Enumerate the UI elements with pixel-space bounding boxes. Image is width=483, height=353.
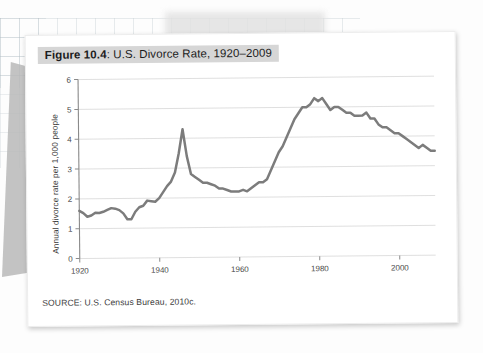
svg-text:5: 5 xyxy=(67,105,72,114)
x-tick-labels: 19201940196019802000 xyxy=(71,263,409,275)
figure-title-text: : U.S. Divorce Rate, 1920–2009 xyxy=(107,47,272,61)
axes xyxy=(74,76,400,262)
svg-text:2: 2 xyxy=(68,195,73,204)
svg-text:3: 3 xyxy=(67,165,72,174)
svg-text:4: 4 xyxy=(67,135,72,144)
figure-title: Figure 10.4: U.S. Divorce Rate, 1920–200… xyxy=(38,45,279,64)
source-note: SOURCE: U.S. Census Bureau, 2010c. xyxy=(42,296,196,307)
svg-text:1980: 1980 xyxy=(311,264,329,273)
svg-text:1: 1 xyxy=(68,225,73,234)
gridlines xyxy=(78,76,436,258)
svg-text:1920: 1920 xyxy=(71,266,89,275)
svg-text:2000: 2000 xyxy=(391,263,409,272)
divorce-rate-line xyxy=(78,97,435,220)
svg-text:6: 6 xyxy=(67,76,72,85)
svg-text:0: 0 xyxy=(68,255,73,264)
svg-text:1960: 1960 xyxy=(231,265,249,274)
y-tick-labels: 0123456 xyxy=(67,76,74,264)
figure-card: Figure 10.4: U.S. Divorce Rate, 1920–200… xyxy=(25,31,459,327)
plot-area: Annual divorce rate per 1,000 people 012… xyxy=(40,70,444,289)
svg-text:1940: 1940 xyxy=(151,266,169,275)
line-chart: 0123456 19201940196019802000 xyxy=(40,70,444,289)
figure-number: Figure 10.4 xyxy=(45,48,107,61)
